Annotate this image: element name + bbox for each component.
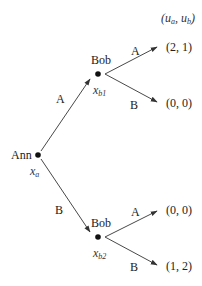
edge-root-A — [41, 79, 90, 151]
label-x-b2: xb2 — [92, 246, 106, 261]
edge-label-root-B: B — [55, 203, 63, 217]
label-ann: Ann — [11, 148, 32, 162]
node-ann — [35, 152, 41, 158]
payoff-bottom-A: (0, 0) — [166, 203, 192, 217]
label-bob-top: Bob — [91, 53, 111, 67]
edge-label-top-A: A — [131, 44, 140, 58]
label-x-a: xa — [29, 164, 39, 179]
payoff-header: (ua, ub) — [161, 11, 195, 26]
game-tree-diagram: (ua, ub) Ann xa Bob xb1 Bob xb2 A B A B … — [0, 0, 202, 286]
payoff-top-B: (0, 0) — [166, 96, 192, 110]
payoff-bottom-B: (1, 2) — [166, 259, 192, 273]
edge-root-B — [41, 159, 90, 232]
edge-label-bottom-A: A — [131, 205, 140, 219]
edge-label-bottom-B: B — [130, 260, 138, 274]
node-bob-top — [95, 71, 101, 77]
edge-label-top-B: B — [130, 98, 138, 112]
edge-label-root-A: A — [56, 92, 65, 106]
payoff-top-A: (2, 1) — [166, 40, 192, 54]
label-bob-bottom: Bob — [91, 216, 111, 230]
node-bob-bottom — [95, 234, 101, 240]
label-x-b1: xb1 — [92, 83, 106, 98]
